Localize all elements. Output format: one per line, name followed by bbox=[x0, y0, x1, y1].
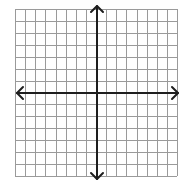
coordinate-plane bbox=[0, 0, 184, 188]
axes bbox=[17, 6, 178, 179]
